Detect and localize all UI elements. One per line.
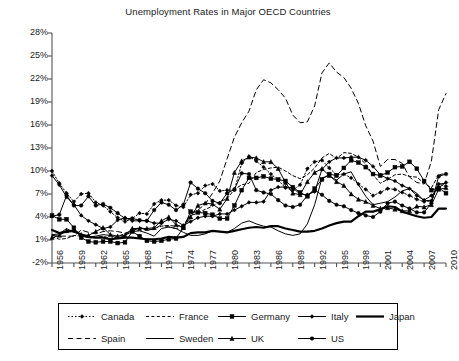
legend-row: SpainSwedenUKUS	[59, 328, 399, 348]
data-point-marker	[80, 314, 84, 318]
legend-swatch-us	[297, 333, 327, 344]
legend-label: Germany	[251, 311, 290, 322]
legend-swatch-uk	[217, 333, 247, 344]
x-axis-tick-label: 1983	[253, 250, 262, 270]
legend-label: Canada	[101, 311, 134, 322]
x-axis-tick-label: 2007	[428, 250, 437, 270]
legend-swatch-japan	[355, 311, 385, 322]
x-axis-tick-label: 1995	[341, 250, 350, 270]
legend-label: Italy	[331, 311, 348, 322]
legend-item-italy[interactable]: Italy	[297, 311, 348, 322]
legend-item-us[interactable]: US	[297, 333, 344, 344]
legend-swatch-germany	[217, 311, 247, 322]
legend-row: CanadaFranceGermanyItalyJapan	[59, 306, 399, 326]
x-axis-tick-label: 1956	[56, 250, 65, 270]
legend-label: Sweden	[179, 333, 213, 344]
legend-item-sweden[interactable]: Sweden	[145, 333, 213, 344]
x-axis-tick-label: 1959	[78, 250, 87, 270]
legend-swatch-italy	[297, 311, 327, 322]
x-axis-tick-label: 1971	[165, 250, 174, 270]
x-axis-tick-label: 1989	[297, 250, 306, 270]
x-axis-tick-label: 2010	[450, 250, 459, 270]
x-axis-tick-label: 1962	[100, 250, 109, 270]
legend-label: US	[331, 333, 344, 344]
x-axis-tick-label: 1992	[319, 250, 328, 270]
legend-label: Japan	[389, 311, 415, 322]
x-axis-tick-label: 1998	[362, 250, 371, 270]
legend-item-uk[interactable]: UK	[217, 333, 264, 344]
legend-label: UK	[251, 333, 264, 344]
legend-label: France	[179, 311, 209, 322]
legend-item-spain[interactable]: Spain	[67, 333, 125, 344]
legend-swatch-spain	[67, 333, 97, 344]
legend-swatch-sweden	[145, 333, 175, 344]
legend-label: Spain	[101, 333, 125, 344]
x-axis-tick-label: 1986	[275, 250, 284, 270]
data-point-marker	[310, 336, 314, 340]
chart-legend: CanadaFranceGermanyItalyJapanSpainSweden…	[58, 303, 398, 350]
legend-swatch-canada	[67, 311, 97, 322]
x-axis-tick-label: 2001	[384, 250, 393, 270]
data-point-marker	[310, 314, 314, 318]
legend-item-japan[interactable]: Japan	[355, 311, 415, 322]
legend-item-canada[interactable]: Canada	[67, 311, 134, 322]
x-axis-tick-label: 1965	[122, 250, 131, 270]
legend-item-france[interactable]: France	[145, 311, 209, 322]
x-axis-tick-label: 2004	[406, 250, 415, 270]
legend-swatch-france	[145, 311, 175, 322]
x-axis-tick-label: 1980	[231, 250, 240, 270]
x-axis-tick-label: 1968	[144, 250, 153, 270]
x-axis-tick-label: 1977	[209, 250, 218, 270]
x-axis-tick-label: 1974	[187, 250, 196, 270]
data-point-marker	[230, 314, 234, 318]
legend-item-germany[interactable]: Germany	[217, 311, 290, 322]
